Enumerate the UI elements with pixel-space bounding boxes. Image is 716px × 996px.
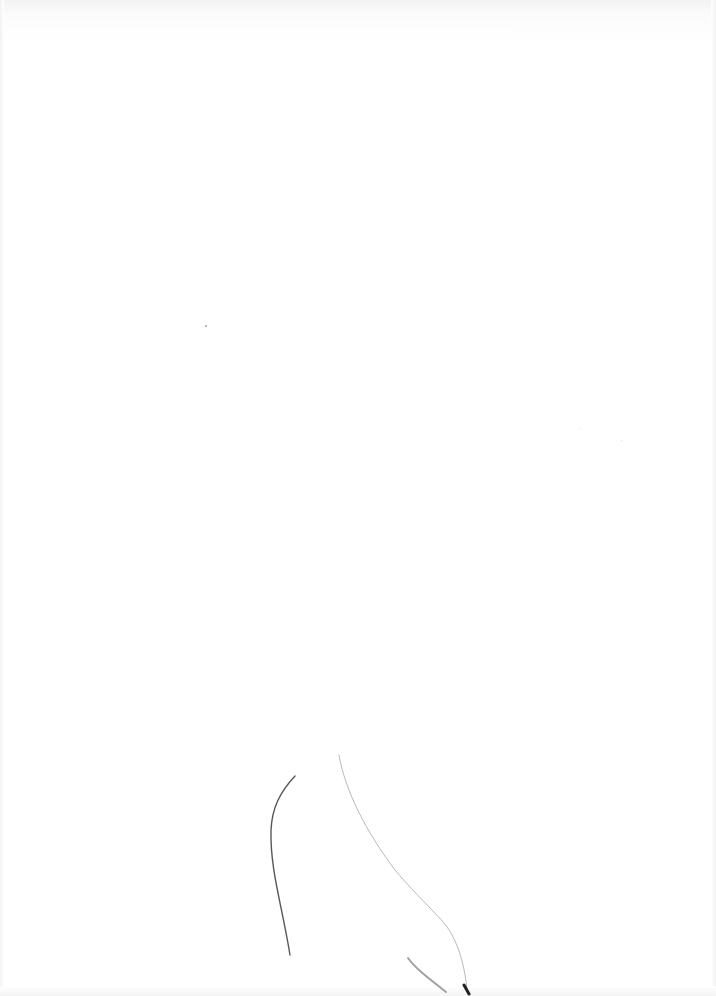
stray-fiber-right	[339, 755, 467, 988]
stray-fiber-bottom	[408, 958, 446, 992]
stray-fiber-left	[271, 776, 295, 955]
stray-fibers	[0, 0, 716, 996]
blank-page	[0, 0, 716, 996]
